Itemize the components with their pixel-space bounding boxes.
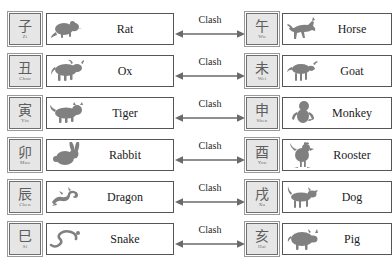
- clash-row: 巳SiSnakeClash亥HaiPig: [0, 222, 352, 256]
- clash-label: Clash: [174, 14, 246, 25]
- branch-box-right[interactable]: 未Wei: [246, 55, 278, 87]
- animal-box-left[interactable]: Tiger: [46, 97, 174, 129]
- clash-connector: Clash: [174, 139, 246, 171]
- clash-label: Clash: [174, 224, 246, 235]
- clash-row: 卯MaoRabbitClash酉YouRooster: [0, 138, 352, 172]
- branch-character: 午: [255, 19, 269, 33]
- animal-name: Rabbit: [87, 148, 173, 163]
- clash-label: Clash: [174, 140, 246, 151]
- animal-name: Tiger: [87, 106, 173, 121]
- clash-row: 辰ChenDragonClash戌XuDog: [0, 180, 352, 214]
- clash-label: Clash: [174, 182, 246, 193]
- animal-name: Goat: [323, 64, 391, 79]
- animal-box-right[interactable]: Rooster: [282, 139, 392, 171]
- branch-character: 酉: [255, 145, 269, 159]
- animal-box-right[interactable]: Dog: [282, 181, 392, 213]
- clash-connector: Clash: [174, 13, 246, 45]
- snake-icon: [47, 224, 87, 254]
- branch-pinyin: Wu: [258, 34, 265, 39]
- branch-box-right[interactable]: 酉You: [246, 139, 278, 171]
- branch-character: 未: [255, 61, 269, 75]
- clash-connector: Clash: [174, 55, 246, 87]
- branch-box-left[interactable]: 巳Si: [9, 223, 41, 255]
- pig-icon: [283, 224, 323, 254]
- animal-name: Dragon: [87, 190, 173, 205]
- clash-row: 子ZiRatClash午WuHorse: [0, 12, 352, 46]
- branch-pinyin: Zi: [23, 34, 28, 39]
- branch-box-right[interactable]: 申Shen: [246, 97, 278, 129]
- goat-icon: [283, 56, 323, 86]
- clash-label: Clash: [174, 56, 246, 67]
- branch-pinyin: Hai: [258, 244, 266, 249]
- branch-pinyin: You: [258, 160, 267, 165]
- dog-icon: [283, 182, 323, 212]
- rabbit-icon: [47, 140, 87, 170]
- branch-pinyin: Si: [23, 244, 28, 249]
- branch-character: 申: [255, 103, 269, 117]
- dragon-icon: [47, 182, 87, 212]
- animal-name: Pig: [323, 232, 391, 247]
- branch-pinyin: Shen: [257, 118, 268, 123]
- animal-name: Ox: [87, 64, 173, 79]
- animal-box-left[interactable]: Rat: [46, 13, 174, 45]
- rat-icon: [47, 14, 87, 44]
- animal-name: Rat: [87, 22, 173, 37]
- branch-box-right[interactable]: 戌Xu: [246, 181, 278, 213]
- tiger-icon: [47, 98, 87, 128]
- branch-box-left[interactable]: 寅Yin: [9, 97, 41, 129]
- branch-pinyin: Xu: [259, 202, 266, 207]
- branch-box-left[interactable]: 卯Mao: [9, 139, 41, 171]
- clash-row: 丑ChouOxClash未WeiGoat: [0, 54, 352, 88]
- branch-pinyin: Wei: [258, 76, 267, 81]
- horse-icon: [283, 14, 323, 44]
- branch-box-left[interactable]: 丑Chou: [9, 55, 41, 87]
- clash-connector: Clash: [174, 97, 246, 129]
- clash-row: 寅YinTigerClash申ShenMonkey: [0, 96, 352, 130]
- animal-box-right[interactable]: Horse: [282, 13, 392, 45]
- animal-box-left[interactable]: Snake: [46, 223, 174, 255]
- branch-character: 寅: [18, 103, 32, 117]
- animal-name: Monkey: [323, 106, 391, 121]
- clash-connector: Clash: [174, 181, 246, 213]
- branch-character: 卯: [18, 145, 32, 159]
- animal-box-left[interactable]: Rabbit: [46, 139, 174, 171]
- branch-character: 丑: [18, 61, 32, 75]
- animal-name: Snake: [87, 232, 173, 247]
- branch-pinyin: Chen: [19, 202, 30, 207]
- clash-label: Clash: [174, 98, 246, 109]
- branch-box-left[interactable]: 子Zi: [9, 13, 41, 45]
- animal-name: Dog: [323, 190, 391, 205]
- branch-character: 子: [18, 19, 32, 33]
- branch-pinyin: Chou: [19, 76, 31, 81]
- branch-pinyin: Mao: [20, 160, 30, 165]
- monkey-icon: [283, 98, 323, 128]
- branch-character: 巳: [18, 229, 32, 243]
- animal-box-left[interactable]: Dragon: [46, 181, 174, 213]
- animal-name: Rooster: [323, 148, 391, 163]
- branch-pinyin: Yin: [21, 118, 29, 123]
- branch-box-left[interactable]: 辰Chen: [9, 181, 41, 213]
- branch-box-right[interactable]: 亥Hai: [246, 223, 278, 255]
- rooster-icon: [283, 140, 323, 170]
- clash-connector: Clash: [174, 223, 246, 255]
- animal-name: Horse: [323, 22, 391, 37]
- branch-character: 辰: [18, 187, 32, 201]
- animal-box-right[interactable]: Pig: [282, 223, 392, 255]
- ox-icon: [47, 56, 87, 86]
- branch-character: 戌: [255, 187, 269, 201]
- animal-box-left[interactable]: Ox: [46, 55, 174, 87]
- branch-character: 亥: [255, 229, 269, 243]
- branch-box-right[interactable]: 午Wu: [246, 13, 278, 45]
- animal-box-right[interactable]: Goat: [282, 55, 392, 87]
- animal-box-right[interactable]: Monkey: [282, 97, 392, 129]
